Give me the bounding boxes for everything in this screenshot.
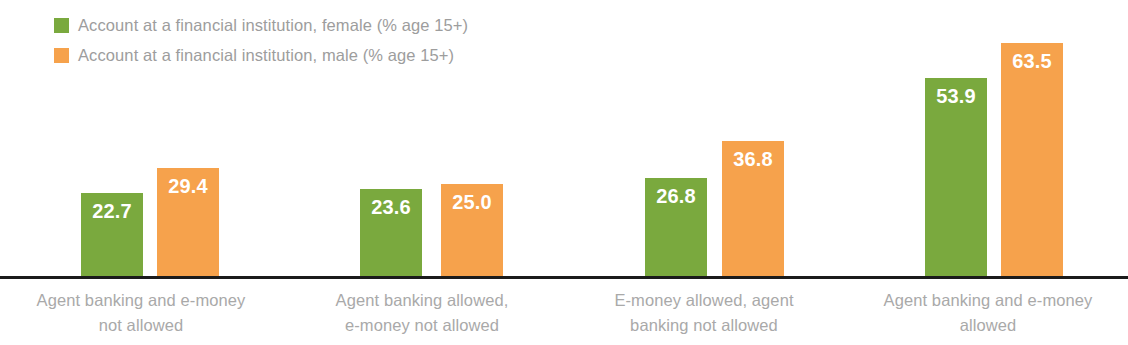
category-label-line2: allowed <box>847 313 1128 338</box>
bar-value-label: 29.4 <box>157 176 219 196</box>
category-label-4: Agent banking and e-moneyallowed <box>847 288 1128 338</box>
bar-male-group-1: 29.4 <box>157 168 219 276</box>
category-label-line1: E-money allowed, agent <box>614 291 793 309</box>
bar-male-group-3: 36.8 <box>722 141 784 276</box>
category-label-line2: banking not allowed <box>563 313 845 338</box>
bar-value-label: 22.7 <box>81 201 143 221</box>
category-label-1: Agent banking and e-moneynot allowed <box>0 288 282 338</box>
category-label-line1: Agent banking allowed, <box>336 291 509 309</box>
bar-female-group-1: 22.7 <box>81 193 143 276</box>
bar-female-group-2: 23.6 <box>360 189 422 276</box>
bar-value-label: 36.8 <box>722 149 784 169</box>
category-label-line2: e-money not allowed <box>281 313 563 338</box>
x-axis-baseline <box>0 276 1128 279</box>
bar-male-group-2: 25.0 <box>441 184 503 276</box>
category-label-3: E-money allowed, agentbanking not allowe… <box>563 288 845 338</box>
bar-chart: Account at a financial institution, fema… <box>0 0 1128 345</box>
bar-value-label: 53.9 <box>925 86 987 106</box>
bar-female-group-3: 26.8 <box>645 178 707 276</box>
category-label-line1: Agent banking and e-money <box>37 291 246 309</box>
category-label-line2: not allowed <box>0 313 282 338</box>
category-label-line1: Agent banking and e-money <box>884 291 1093 309</box>
category-label-2: Agent banking allowed,e-money not allowe… <box>281 288 563 338</box>
bar-female-group-4: 53.9 <box>925 78 987 276</box>
bar-value-label: 25.0 <box>441 192 503 212</box>
bar-value-label: 63.5 <box>1001 51 1063 71</box>
x-axis-category-labels: Agent banking and e-moneynot allowedAgen… <box>0 288 1128 345</box>
bar-value-label: 23.6 <box>360 197 422 217</box>
plot-area: 22.729.423.625.026.836.853.963.5 <box>0 0 1128 278</box>
bar-value-label: 26.8 <box>645 186 707 206</box>
bar-male-group-4: 63.5 <box>1001 43 1063 276</box>
